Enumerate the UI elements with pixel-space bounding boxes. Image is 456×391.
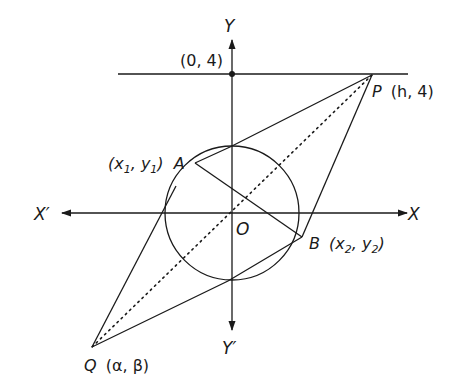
tangent-QB (92, 237, 302, 347)
point-B-coords-prefix: (x (329, 234, 345, 253)
point-A-coords-prefix: (x (108, 154, 124, 173)
point-B-suffix: ) (377, 234, 384, 253)
point-B-label: B (x2, y2) (309, 234, 385, 256)
point-A-name: A (173, 154, 185, 173)
point-P-name: P (372, 82, 382, 101)
point-0-4-label: (0, 4) (180, 51, 223, 70)
x-axis-label: X (407, 204, 420, 224)
point-0-4-dot (229, 71, 235, 77)
point-B-sub2: 2 (371, 243, 378, 256)
point-A-suffix: ) (156, 154, 163, 173)
x-prime-axis-label: X′ (33, 204, 50, 224)
point-P-label: P (h, 4) (372, 82, 434, 101)
point-A-mid: , y (131, 154, 151, 173)
point-Q-label: Q (α, β) (84, 356, 149, 375)
y-axis-label: Y (224, 16, 236, 36)
point-B-name: B (309, 234, 320, 253)
tangent-PA (195, 75, 372, 163)
point-B-mid: , y (352, 234, 372, 253)
y-prime-axis-label: Y′ (222, 338, 236, 358)
point-B-sub1: 2 (345, 243, 352, 256)
point-A-sub2: 1 (150, 163, 157, 176)
tangent-QA (92, 186, 176, 347)
point-P-coords: (h, 4) (391, 82, 434, 101)
geometry-diagram: Y Y′ X X′ O (0, 4) P (h, 4) Q (α, β) (x1… (0, 0, 456, 391)
point-Q-name: Q (84, 356, 97, 375)
point-A-sub1: 1 (124, 163, 131, 176)
point-A-label: (x1, y1) A (108, 154, 185, 176)
point-Q-coords: (α, β) (106, 356, 149, 375)
origin-label: O (236, 219, 249, 239)
